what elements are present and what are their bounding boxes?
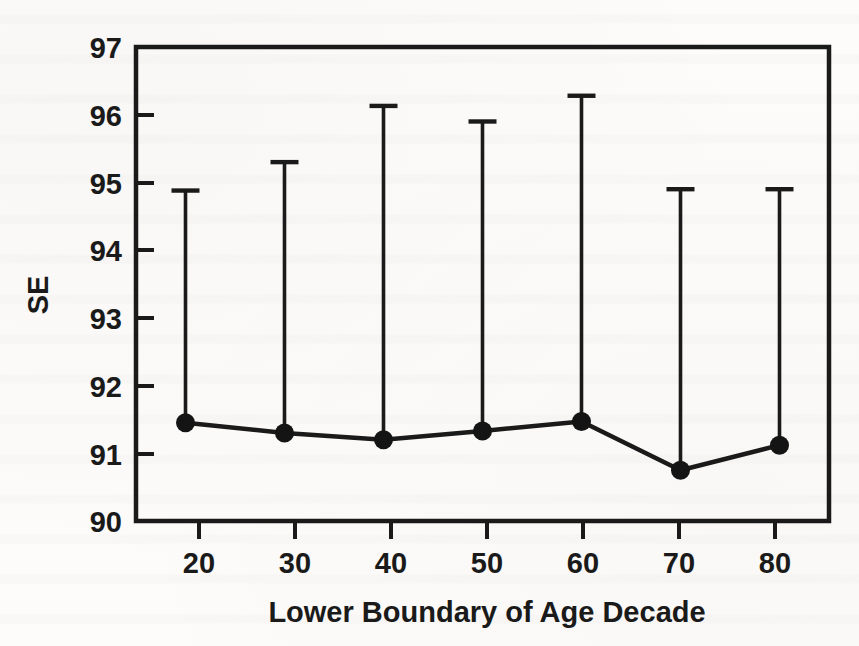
- error-bar: [271, 162, 299, 433]
- y-tick-label-94: 94: [90, 235, 122, 267]
- error-bar: [469, 121, 497, 430]
- data-point-marker: [473, 421, 492, 440]
- y-tick-label-95: 95: [90, 168, 122, 200]
- x-tick-label-20: 20: [183, 547, 215, 579]
- error-bar: [370, 106, 398, 440]
- x-tick-label-40: 40: [375, 547, 407, 579]
- y-tick-label-97: 97: [90, 32, 122, 64]
- figure-page: 97 96 95 94 93 92 91 90 SE 20 30 40 50: [0, 0, 859, 646]
- y-tick-marks: [136, 47, 154, 521]
- x-tick-label-50: 50: [471, 547, 503, 579]
- error-bar: [667, 189, 695, 470]
- y-tick-labels: 97 96 95 94 93 92 91 90: [90, 32, 122, 538]
- y-tick-label-93: 93: [90, 303, 122, 335]
- error-bar: [568, 96, 596, 422]
- error-bar: [766, 189, 794, 445]
- x-tick-labels: 20 30 40 50 60 70 80: [183, 547, 791, 579]
- error-bar: [172, 191, 200, 423]
- data-point-marker: [374, 430, 393, 449]
- se-by-age-decade-chart: 97 96 95 94 93 92 91 90 SE 20 30 40 50: [0, 0, 859, 646]
- x-tick-label-70: 70: [663, 547, 695, 579]
- data-point-marker: [572, 412, 591, 431]
- x-tick-label-80: 80: [759, 547, 791, 579]
- data-point-marker: [275, 423, 294, 442]
- y-tick-label-96: 96: [90, 100, 122, 132]
- data-point-marker: [671, 461, 690, 480]
- y-tick-label-90: 90: [90, 506, 122, 538]
- y-tick-label-91: 91: [90, 439, 122, 471]
- x-axis-title: Lower Boundary of Age Decade: [268, 596, 705, 628]
- data-point-marker: [770, 436, 789, 455]
- x-tick-label-60: 60: [567, 547, 599, 579]
- x-tick-label-30: 30: [279, 547, 311, 579]
- y-axis-title: SE: [22, 276, 54, 315]
- y-tick-label-92: 92: [90, 371, 122, 403]
- plot-data-layer: [172, 96, 794, 480]
- x-tick-marks: [199, 521, 775, 539]
- data-point-marker: [176, 413, 195, 432]
